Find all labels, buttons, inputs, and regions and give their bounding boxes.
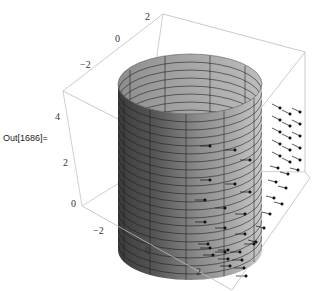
top-axis-tick-neg2: −2	[80, 59, 91, 70]
3d-plot[interactable]: 2 0 −2 4 2 0 −2 0 2	[0, 0, 321, 291]
z-axis-tick-2: 2	[63, 157, 68, 168]
top-axis-tick-2: 2	[145, 11, 150, 22]
z-axis-tick-4: 4	[55, 111, 60, 122]
bottom-axis-tick-2: 2	[196, 266, 201, 277]
top-axis-tick-0: 0	[115, 33, 120, 44]
bottom-axis-tick-0: 0	[145, 245, 150, 256]
z-axis-tick-0: 0	[71, 198, 76, 209]
bottom-axis-tick-neg2: −2	[93, 225, 104, 236]
